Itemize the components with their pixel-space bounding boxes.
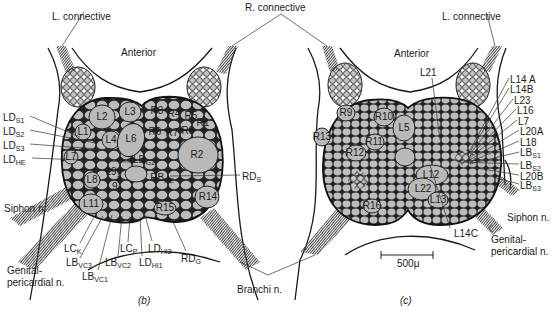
label-l14b: L14B: [510, 85, 533, 95]
label-r11: R11: [365, 137, 383, 147]
label-r9: R9: [340, 108, 353, 118]
label-r1: R1: [197, 118, 210, 128]
l-connective-label-c: L. connective: [442, 12, 501, 22]
dense-cluster-c1: [348, 171, 368, 189]
label-r3: R3: [151, 106, 164, 116]
label-rdg: RDG: [181, 254, 201, 267]
genital-label-b-1: Genital-: [7, 266, 42, 276]
label-lds1: LDS1: [3, 113, 24, 126]
r-connective-b: [216, 46, 238, 74]
label-lck: LCK: [64, 244, 81, 257]
label-r5: R5: [185, 111, 198, 121]
label-l1: L1: [77, 127, 88, 137]
r-connective-label: R. connective: [245, 3, 306, 13]
label-l5: L5: [398, 123, 409, 133]
label-r12: R12: [346, 148, 364, 158]
label-l16: L16: [517, 106, 534, 116]
scale-bar-label: 500μ: [397, 259, 419, 269]
label-lbvc1: LBVC1: [82, 272, 108, 285]
label-l12: L12: [423, 170, 440, 180]
label-r2: R2: [191, 150, 204, 160]
label-l7: L7: [65, 152, 76, 162]
label-rds: RDS: [242, 172, 261, 185]
label-ldhi2: LDHI2: [148, 244, 172, 257]
label-r10: R10: [375, 112, 393, 122]
label-lbs3: LBS3: [520, 181, 541, 194]
label-l91: L91: [105, 167, 120, 180]
panel-caption-b: (b): [138, 295, 150, 306]
label-lcp: LCP: [120, 244, 137, 257]
label-lds3: LDS3: [3, 141, 24, 154]
genital-label-c-1: Genital-: [491, 235, 526, 245]
label-r8: R8: [182, 126, 195, 136]
l21-label: L21: [420, 68, 437, 78]
label-r6: R6: [149, 127, 162, 137]
label-rbhe: RBHE: [150, 173, 174, 186]
label-l3: L3: [124, 107, 135, 117]
panel-caption-c: (c): [400, 295, 412, 306]
anterior-label-b: Anterior: [121, 48, 156, 58]
label-l20a: L20A: [520, 127, 543, 137]
label-l8: L8: [86, 175, 97, 185]
label-l13: L13: [430, 195, 447, 205]
dense-cluster-c2: [455, 151, 475, 165]
label-ldhi1: LDHI1: [139, 258, 163, 271]
branchi-nerve-b: [200, 208, 260, 270]
label-ldhe: LDHE: [3, 155, 26, 168]
label-lbvc3: LBVC3: [66, 258, 92, 271]
l-connective-label-b: L. connective: [52, 12, 111, 22]
label-ldg2: LDG2: [133, 155, 155, 168]
siphon-nerve-label-c: Siphon n.: [507, 213, 549, 223]
siphon-nerve-label-b: Siphon n.: [4, 204, 46, 214]
l14c-label: L14C: [454, 229, 478, 239]
label-r15: R15: [156, 203, 174, 213]
label-l92: L92: [106, 182, 121, 195]
label-l11: L11: [83, 199, 99, 209]
label-lbvc2: LBVC2: [105, 258, 131, 271]
branchi-nerve-label: Branchi n.: [237, 285, 282, 295]
label-r14: R14: [199, 192, 217, 202]
cluster-left-c: [328, 63, 362, 107]
genital-label-b-2: pericardial n.: [7, 278, 64, 288]
label-r4: R4: [168, 109, 181, 119]
label-l22: L22: [415, 184, 432, 194]
label-r13: R13: [313, 132, 331, 142]
label-r16: R16: [363, 201, 381, 211]
label-l4: L4: [105, 135, 116, 145]
label-lds2: LDS2: [3, 127, 24, 140]
label-r7: R7: [166, 128, 179, 138]
label-l6: L6: [125, 134, 136, 144]
anterior-label-c: Anterior: [394, 49, 429, 59]
label-l2: L2: [96, 112, 107, 122]
genital-label-c-2: pericardial n.: [491, 247, 548, 257]
